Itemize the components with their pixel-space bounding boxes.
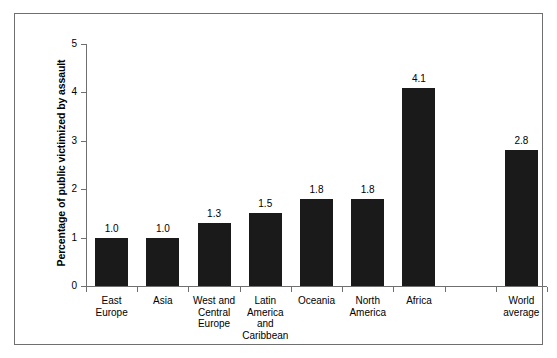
- plot-area: 012345 1.01.01.31.51.81.84.12.8 EastEuro…: [86, 44, 546, 286]
- x-category-label-line: Europe: [82, 307, 142, 319]
- x-tick-mark: [342, 287, 343, 292]
- chart-frame: Percentage of public victimized by assau…: [14, 13, 543, 345]
- y-tick-label: 5: [59, 38, 77, 49]
- y-tick-label: 3: [59, 135, 77, 146]
- y-tick-label: 2: [59, 183, 77, 194]
- bar-value-label: 1.0: [87, 223, 137, 234]
- chart-figure: Percentage of public victimized by assau…: [0, 0, 557, 358]
- x-tick-mark: [496, 287, 497, 292]
- x-tick-mark: [291, 287, 292, 292]
- bar: [146, 238, 179, 286]
- x-tick-mark: [137, 287, 138, 292]
- bar-series: [86, 44, 547, 286]
- bar: [95, 238, 128, 286]
- x-tick-mark: [393, 287, 394, 292]
- bar: [351, 199, 384, 286]
- x-tick-mark: [445, 287, 446, 292]
- x-axis-line: [86, 286, 547, 287]
- bar-value-label: 1.0: [138, 223, 188, 234]
- bar-value-label: 4.1: [394, 73, 444, 84]
- bar-value-label: 2.8: [496, 135, 546, 146]
- bar: [300, 199, 333, 286]
- bar-value-label: 1.8: [343, 184, 393, 195]
- x-category-label-line: America: [235, 307, 295, 319]
- x-category-label-line: America: [338, 307, 398, 319]
- x-category-label-line: Africa: [389, 295, 449, 307]
- bar: [505, 150, 538, 286]
- y-axis-title: Percentage of public victimized by assau…: [55, 38, 67, 288]
- x-category-label-line: and: [235, 318, 295, 330]
- bar-value-label: 1.3: [189, 208, 239, 219]
- bar-value-label: 1.5: [240, 198, 290, 209]
- y-tick-label: 4: [59, 86, 77, 97]
- x-category-label-line: World: [491, 295, 551, 307]
- x-tick-mark: [547, 287, 548, 292]
- x-tick-mark: [240, 287, 241, 292]
- x-tick-mark: [188, 287, 189, 292]
- bar: [249, 213, 282, 286]
- y-tick-label: 1: [59, 232, 77, 243]
- bar-value-label: 1.8: [292, 184, 342, 195]
- x-category-label-line: average: [491, 307, 551, 319]
- bar: [402, 88, 435, 286]
- x-tick-mark: [86, 287, 87, 292]
- bar: [198, 223, 231, 286]
- x-category-label-line: Caribbean: [235, 330, 295, 342]
- x-category-label: Africa: [389, 295, 449, 307]
- x-category-label: Worldaverage: [491, 295, 551, 318]
- y-tick-label: 0: [59, 280, 77, 291]
